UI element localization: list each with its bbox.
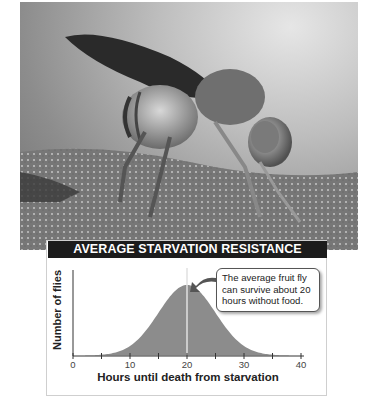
callout-line: can survive about 20 bbox=[222, 284, 314, 296]
x-axis-label: Hours until death from starvation bbox=[80, 371, 296, 383]
annotation-callout: The average fruit fly can survive about … bbox=[216, 268, 320, 312]
x-tick-label: 10 bbox=[120, 359, 140, 370]
callout-line: The average fruit fly bbox=[222, 272, 314, 284]
x-tick-label: 0 bbox=[63, 359, 83, 370]
callout-line: hours without food. bbox=[222, 295, 314, 307]
x-tick-label: 40 bbox=[291, 359, 311, 370]
x-tick-label: 30 bbox=[234, 359, 254, 370]
y-axis-label: Number of flies bbox=[51, 260, 67, 350]
callout-arrow-icon bbox=[190, 278, 216, 292]
x-tick-label: 20 bbox=[177, 359, 197, 370]
